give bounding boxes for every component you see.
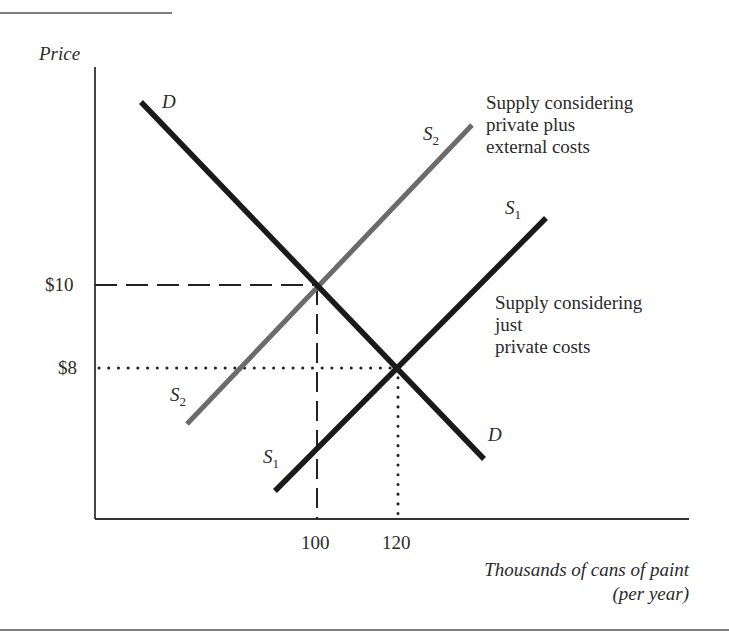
s1-label-sub: 1: [273, 456, 280, 471]
s2-label-sub: 2: [433, 133, 440, 148]
s1-label-bottom: S1: [263, 447, 279, 470]
s2-label-top: S2: [423, 124, 439, 147]
s1-label-sub: 1: [515, 207, 522, 222]
s2-annotation-line: Supply considering: [486, 92, 633, 114]
x-axis-label-line1: Thousands of cans of paint: [484, 560, 689, 579]
s2-label-bottom: S2: [170, 385, 186, 408]
x-axis-label-line2: (per year): [613, 584, 690, 603]
s1-label-letter: S: [263, 446, 273, 467]
s1-label-letter: S: [505, 197, 515, 218]
s1-annotation-line: private costs: [495, 336, 642, 358]
s2-label-letter: S: [170, 384, 180, 405]
demand-label-top: D: [162, 92, 176, 111]
s1-annotation-line: just: [495, 314, 642, 336]
x-tick-120: 120: [382, 533, 411, 552]
y-tick-10: $10: [45, 275, 74, 294]
y-axis-label: Price: [39, 44, 80, 63]
demand-curve: [141, 102, 484, 459]
supply-s2-curve: [187, 125, 472, 424]
s1-annotation-line: Supply considering: [495, 292, 642, 314]
s2-annotation-line: private plus: [486, 114, 633, 136]
s2-annotation: Supply considering private plus external…: [486, 92, 633, 158]
s1-annotation: Supply considering just private costs: [495, 292, 642, 358]
s2-label-letter: S: [423, 123, 433, 144]
s1-label-top: S1: [505, 198, 521, 221]
s2-annotation-line: external costs: [486, 136, 633, 158]
x-tick-100: 100: [301, 533, 330, 552]
y-tick-8: $8: [58, 358, 77, 377]
demand-label-bottom: D: [488, 425, 502, 444]
s2-label-sub: 2: [180, 394, 187, 409]
